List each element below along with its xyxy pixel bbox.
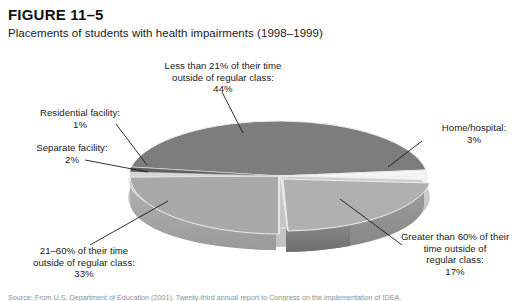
callout-residential-facility: Residential facility: 1% <box>24 107 136 130</box>
callout-home-hospital: Home/hospital: 3% <box>424 122 524 145</box>
figure-container: FIGURE 11–5 Placements of students with … <box>0 0 528 301</box>
callout-greater-than-60: Greater than 60% of their time outside o… <box>386 231 524 277</box>
callout-separate-facility: Separate facility: 2% <box>8 142 136 165</box>
pie-slice-less-than-21 <box>131 121 426 176</box>
callout-less-than-21: Less than 21% of their time outside of r… <box>143 60 303 95</box>
figure-source-note: Source: From U.S. Department of Educatio… <box>8 293 401 301</box>
callout-21-to-60: 21–60% of their time outside of regular … <box>8 245 160 280</box>
